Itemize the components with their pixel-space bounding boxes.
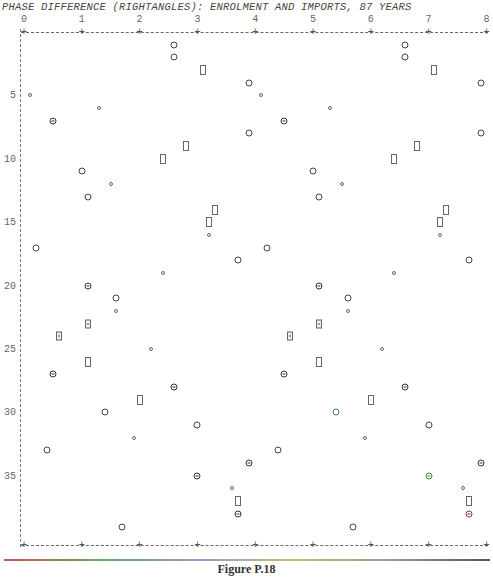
rect-marker: [200, 65, 206, 75]
circle-marker: [477, 79, 484, 86]
dbl-marker: [85, 319, 91, 328]
circle-marker: [344, 295, 351, 302]
tick-mark: +: [194, 540, 200, 550]
theta-marker: [425, 472, 432, 479]
dbl-marker: [316, 319, 322, 328]
theta-marker: [315, 282, 322, 289]
small-marker: [363, 436, 367, 440]
tick-mark: +: [426, 540, 432, 550]
circle-marker: [84, 193, 91, 200]
small-marker: [109, 182, 113, 186]
theta-marker: [402, 384, 409, 391]
rect-marker: [206, 217, 212, 227]
circle-marker: [119, 523, 126, 530]
tick-mark: +: [310, 540, 316, 550]
rect-marker: [212, 205, 218, 215]
circle-marker: [263, 244, 270, 251]
y-tick-label: 25: [0, 344, 16, 355]
rect-marker: [235, 496, 241, 506]
small-marker: [149, 347, 153, 351]
tick-mark: +: [310, 27, 316, 37]
circle-marker: [333, 409, 340, 416]
tick-mark: +: [137, 27, 143, 37]
theta-marker: [246, 460, 253, 467]
circle-marker: [234, 257, 241, 264]
tick-mark: +: [137, 540, 143, 550]
circle-marker: [310, 168, 317, 175]
circle-marker: [246, 79, 253, 86]
tick-mark: +: [21, 27, 27, 37]
tick-mark: +: [79, 540, 85, 550]
circle-marker: [78, 168, 85, 175]
tick-mark: +: [368, 27, 374, 37]
circle-marker: [402, 54, 409, 61]
tick-mark: +: [21, 540, 27, 550]
x-tick-label: 7: [426, 14, 432, 25]
theta-marker: [49, 371, 56, 378]
circle-marker: [402, 41, 409, 48]
small-marker: [28, 93, 32, 97]
y-tick-label: 10: [0, 153, 16, 164]
tick-mark: +: [194, 27, 200, 37]
x-tick-label: 0: [21, 14, 27, 25]
dbl-marker: [56, 332, 62, 341]
circle-marker: [246, 130, 253, 137]
small-marker: [132, 436, 136, 440]
theta-marker: [281, 371, 288, 378]
y-tick-label: 30: [0, 407, 16, 418]
small-marker: [438, 233, 442, 237]
y-tick-label: 35: [0, 470, 16, 481]
tick-mark: +: [426, 27, 432, 37]
circle-marker: [32, 244, 39, 251]
theta-marker: [234, 510, 241, 517]
small-marker: [461, 486, 465, 490]
rect-marker: [431, 65, 437, 75]
rect-marker: [391, 154, 397, 164]
x-tick-label: 3: [194, 14, 200, 25]
theta-marker: [477, 460, 484, 467]
page-rule: [4, 559, 490, 561]
x-tick-label: 8: [483, 14, 489, 25]
figure-caption: Figure P.18: [0, 562, 493, 577]
circle-marker: [350, 523, 357, 530]
y-tick-label: 20: [0, 280, 16, 291]
circle-marker: [171, 41, 178, 48]
small-marker: [161, 271, 165, 275]
x-tick-label: 1: [79, 14, 85, 25]
small-marker: [392, 271, 396, 275]
tick-mark: +: [368, 540, 374, 550]
tick-mark: +: [252, 540, 258, 550]
small-marker: [230, 486, 234, 490]
theta-marker: [194, 472, 201, 479]
rect-marker: [160, 154, 166, 164]
small-marker: [328, 106, 332, 110]
small-marker: [97, 106, 101, 110]
rect-marker: [443, 205, 449, 215]
small-marker: [340, 182, 344, 186]
rect-marker: [466, 496, 472, 506]
circle-marker: [477, 130, 484, 137]
circle-marker: [275, 447, 282, 454]
y-tick-label: 5: [0, 90, 16, 101]
chart-title: PHASE DIFFERENCE (RIGHTANGLES): ENROLMEN…: [2, 1, 412, 13]
dbl-marker: [287, 332, 293, 341]
small-marker: [114, 309, 118, 313]
rect-marker: [437, 217, 443, 227]
rect-marker: [85, 357, 91, 367]
theta-marker: [281, 117, 288, 124]
y-tick-label: 15: [0, 217, 16, 228]
small-marker: [207, 233, 211, 237]
rect-marker: [137, 395, 143, 405]
theta-marker: [466, 510, 473, 517]
tick-mark: +: [79, 27, 85, 37]
circle-marker: [315, 193, 322, 200]
left-axis-line: [20, 29, 21, 547]
tick-mark: +: [483, 27, 489, 37]
circle-marker: [466, 257, 473, 264]
x-tick-label: 5: [310, 14, 316, 25]
theta-marker: [171, 384, 178, 391]
circle-marker: [425, 422, 432, 429]
tick-mark: +: [252, 27, 258, 37]
rect-marker: [414, 141, 420, 151]
x-tick-label: 4: [252, 14, 258, 25]
